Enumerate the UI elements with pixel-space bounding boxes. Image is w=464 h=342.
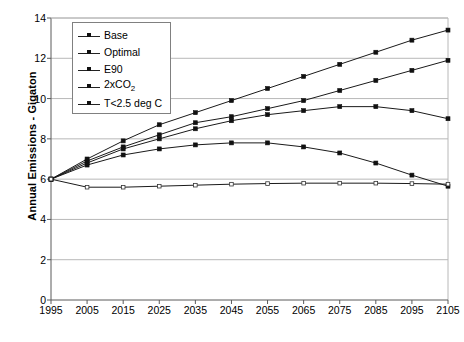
data-point — [266, 107, 270, 111]
data-point — [157, 184, 161, 188]
data-point — [157, 137, 161, 141]
data-point — [229, 115, 233, 119]
data-point — [266, 182, 270, 186]
data-point — [157, 123, 161, 127]
data-point — [230, 182, 234, 186]
data-point — [446, 58, 450, 62]
data-point — [193, 143, 197, 147]
data-point — [266, 87, 270, 91]
data-point — [302, 74, 306, 78]
legend-label: Optimal — [104, 47, 140, 58]
legend-key-icon — [78, 48, 100, 58]
data-point — [193, 121, 197, 125]
data-point — [193, 127, 197, 131]
data-point — [374, 78, 378, 82]
data-point — [410, 173, 414, 177]
data-point — [121, 185, 125, 189]
legend-label: E90 — [104, 64, 123, 75]
data-point — [302, 145, 306, 149]
data-point — [266, 113, 270, 117]
chart-legend: Base Optimal E90 2xCO2 T<2.5 deg C — [72, 22, 171, 114]
data-point — [374, 50, 378, 54]
data-point — [266, 141, 270, 145]
legend-item-t25: T<2.5 deg C — [73, 95, 170, 112]
data-point — [121, 139, 125, 143]
legend-key-icon — [78, 31, 100, 41]
data-point — [302, 109, 306, 113]
data-point — [229, 99, 233, 103]
data-point — [374, 181, 378, 185]
data-point — [302, 181, 306, 185]
data-point — [193, 111, 197, 115]
data-point — [410, 38, 414, 42]
data-point — [338, 89, 342, 93]
data-point — [410, 109, 414, 113]
data-point — [157, 147, 161, 151]
data-point — [338, 151, 342, 155]
data-point — [374, 105, 378, 109]
data-point — [229, 119, 233, 123]
data-point — [85, 163, 89, 167]
data-point — [85, 185, 89, 189]
legend-key-icon — [78, 82, 100, 92]
data-point — [338, 62, 342, 66]
data-point — [157, 133, 161, 137]
series-line-t-2-5-deg-c — [51, 179, 448, 187]
data-point — [302, 99, 306, 103]
data-point — [446, 28, 450, 32]
data-point — [338, 181, 342, 185]
data-point — [410, 182, 414, 186]
legend-label: Base — [104, 30, 128, 41]
data-point — [338, 105, 342, 109]
legend-label: T<2.5 deg C — [104, 98, 162, 109]
series-line-2xco2 — [51, 143, 448, 186]
legend-item-optimal: Optimal — [73, 44, 170, 61]
data-point — [374, 161, 378, 165]
data-point — [121, 153, 125, 157]
legend-label: 2xCO2 — [104, 79, 135, 94]
data-point — [446, 182, 450, 186]
data-point — [229, 141, 233, 145]
legend-item-2xco2: 2xCO2 — [73, 78, 170, 95]
legend-item-base: Base — [73, 27, 170, 44]
data-point — [194, 183, 198, 187]
data-point — [410, 68, 414, 72]
data-point — [49, 177, 53, 181]
legend-item-e90: E90 — [73, 61, 170, 78]
data-point — [446, 117, 450, 121]
data-point — [121, 147, 125, 151]
legend-key-icon — [78, 65, 100, 75]
legend-key-icon — [78, 99, 100, 109]
